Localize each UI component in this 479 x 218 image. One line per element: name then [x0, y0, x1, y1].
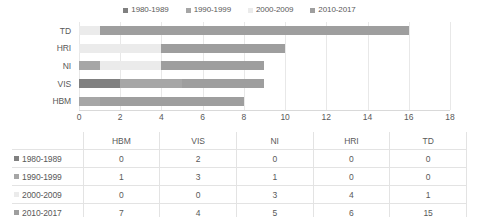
table-row-swatch-1990-1999-icon — [14, 174, 19, 179]
category-label-VIS: VIS — [30, 75, 75, 93]
gridline-18 — [450, 22, 451, 110]
chart-legend: 1980-19891990-19992000-20092010-2017 — [0, 3, 479, 17]
table-row-swatch-2000-2009-icon — [14, 192, 19, 197]
data-table: HBMVISNIHRITD 1980-1989020001990-1999131… — [12, 132, 467, 217]
x-tick-label-10: 10 — [280, 112, 289, 122]
table-row-header-1990-1999: 1990-1999 — [12, 168, 83, 186]
bar-segment-TD-2000-2009[interactable] — [79, 26, 100, 35]
table-cell-2010-2017-VIS: 4 — [160, 204, 237, 218]
table-row: 2010-2017745615 — [12, 204, 467, 218]
table-cell-1980-1989-NI: 0 — [236, 150, 313, 168]
legend-swatch-1980-1989-icon — [123, 8, 128, 13]
table-column-header-NI: NI — [236, 132, 313, 150]
bar-segment-HRI-2010-2017[interactable] — [161, 44, 285, 53]
bar-segment-NI-2010-2017[interactable] — [161, 61, 264, 70]
table-row-swatch-2010-2017-icon — [14, 210, 19, 215]
x-tick-label-14: 14 — [363, 112, 372, 122]
x-tick-label-4: 4 — [159, 112, 164, 122]
table-cell-2000-2009-HBM: 0 — [83, 186, 160, 204]
x-tick-label-2: 2 — [118, 112, 123, 122]
bar-segment-HBM-2010-2017[interactable] — [100, 97, 244, 106]
bar-segment-VIS-1990-1999[interactable] — [120, 79, 182, 88]
x-tick-label-8: 8 — [242, 112, 247, 122]
legend-item-label: 1990-1999 — [194, 6, 231, 14]
table-cell-1990-1999-NI: 1 — [236, 168, 313, 186]
bar-remainder — [285, 44, 450, 53]
category-axis: TDHRINIVISHBM — [30, 22, 75, 110]
stacked-bar-HRI[interactable] — [79, 44, 450, 53]
table-cell-1990-1999-TD: 0 — [390, 168, 467, 186]
bar-segment-TD-2010-2017[interactable] — [100, 26, 409, 35]
chart-plot-area: TDHRINIVISHBM 024681012141618 — [0, 22, 479, 130]
category-label-HBM: HBM — [30, 92, 75, 110]
table-cell-1980-1989-VIS: 2 — [160, 150, 237, 168]
table-row-header-2000-2009: 2000-2009 — [12, 186, 83, 204]
legend-item-1980-1989[interactable]: 1980-1989 — [123, 6, 168, 14]
table-cell-2010-2017-NI: 5 — [236, 204, 313, 218]
table-row-swatch-1980-1989-icon — [14, 156, 19, 161]
bar-remainder — [264, 61, 450, 70]
stacked-bar-NI[interactable] — [79, 61, 450, 70]
x-tick-label-18: 18 — [445, 112, 454, 122]
table-column-header-HBM: HBM — [83, 132, 160, 150]
legend-item-label: 2010-2017 — [318, 6, 355, 14]
bar-remainder — [264, 79, 450, 88]
stacked-bar-TD[interactable] — [79, 26, 450, 35]
table-row-header-label: 1980-1989 — [22, 154, 62, 164]
legend-item-2010-2017[interactable]: 2010-2017 — [310, 6, 355, 14]
table-corner-cell — [12, 132, 83, 150]
table-cell-2010-2017-HRI: 6 — [313, 204, 390, 218]
table-row: 1990-199913100 — [12, 168, 467, 186]
bar-segment-VIS-2010-2017[interactable] — [182, 79, 264, 88]
table-column-header-TD: TD — [390, 132, 467, 150]
table-column-header-HRI: HRI — [313, 132, 390, 150]
category-label-TD: TD — [30, 22, 75, 40]
legend-swatch-1990-1999-icon — [186, 8, 191, 13]
table-column-header-VIS: VIS — [160, 132, 237, 150]
legend-item-2000-2009[interactable]: 2000-2009 — [248, 6, 293, 14]
x-tick-label-0: 0 — [77, 112, 82, 122]
table-row-header-label: 2010-2017 — [22, 208, 62, 218]
x-tick-label-12: 12 — [322, 112, 331, 122]
category-label-NI: NI — [30, 57, 75, 75]
table-cell-1980-1989-HRI: 0 — [313, 150, 390, 168]
x-tick-label-6: 6 — [200, 112, 205, 122]
bar-segment-HRI-2000-2009[interactable] — [79, 44, 161, 53]
bar-row-NI — [79, 57, 450, 75]
legend-swatch-2010-2017-icon — [310, 8, 315, 13]
table-cell-2010-2017-HBM: 7 — [83, 204, 160, 218]
table-cell-1990-1999-HBM: 1 — [83, 168, 160, 186]
table-row: 2000-200900341 — [12, 186, 467, 204]
table-cell-2010-2017-TD: 15 — [390, 204, 467, 218]
table-row-header-2010-2017: 2010-2017 — [12, 204, 83, 218]
x-tick-label-16: 16 — [404, 112, 413, 122]
stacked-bar-HBM[interactable] — [79, 97, 450, 106]
table-header-row: HBMVISNIHRITD — [12, 132, 467, 150]
bar-remainder — [244, 97, 450, 106]
bar-remainder — [409, 26, 450, 35]
bar-row-VIS — [79, 75, 450, 93]
table-cell-2000-2009-VIS: 0 — [160, 186, 237, 204]
stacked-bar-VIS[interactable] — [79, 79, 450, 88]
table-row-header-label: 1990-1999 — [22, 172, 62, 182]
table-row-header-1980-1989: 1980-1989 — [12, 150, 83, 168]
bar-segment-HBM-1990-1999[interactable] — [79, 97, 100, 106]
plot-inner — [79, 22, 450, 110]
table-head: HBMVISNIHRITD — [12, 132, 467, 150]
bar-segment-NI-1990-1999[interactable] — [79, 61, 100, 70]
table-cell-2000-2009-NI: 3 — [236, 186, 313, 204]
table-body: 1980-1989020001990-1999131002000-2009003… — [12, 150, 467, 218]
bar-segment-VIS-1980-1989[interactable] — [79, 79, 120, 88]
legend-item-label: 2000-2009 — [256, 6, 293, 14]
table-cell-2000-2009-TD: 1 — [390, 186, 467, 204]
table-cell-2000-2009-HRI: 4 — [313, 186, 390, 204]
legend-swatch-2000-2009-icon — [248, 8, 253, 13]
bar-row-HRI — [79, 40, 450, 58]
table-cell-1990-1999-VIS: 3 — [160, 168, 237, 186]
table-cell-1980-1989-HBM: 0 — [83, 150, 160, 168]
bar-segment-NI-2000-2009[interactable] — [100, 61, 162, 70]
x-axis-line — [79, 110, 450, 111]
bar-row-TD — [79, 22, 450, 40]
table-row-header-label: 2000-2009 — [22, 190, 62, 200]
legend-item-1990-1999[interactable]: 1990-1999 — [186, 6, 231, 14]
